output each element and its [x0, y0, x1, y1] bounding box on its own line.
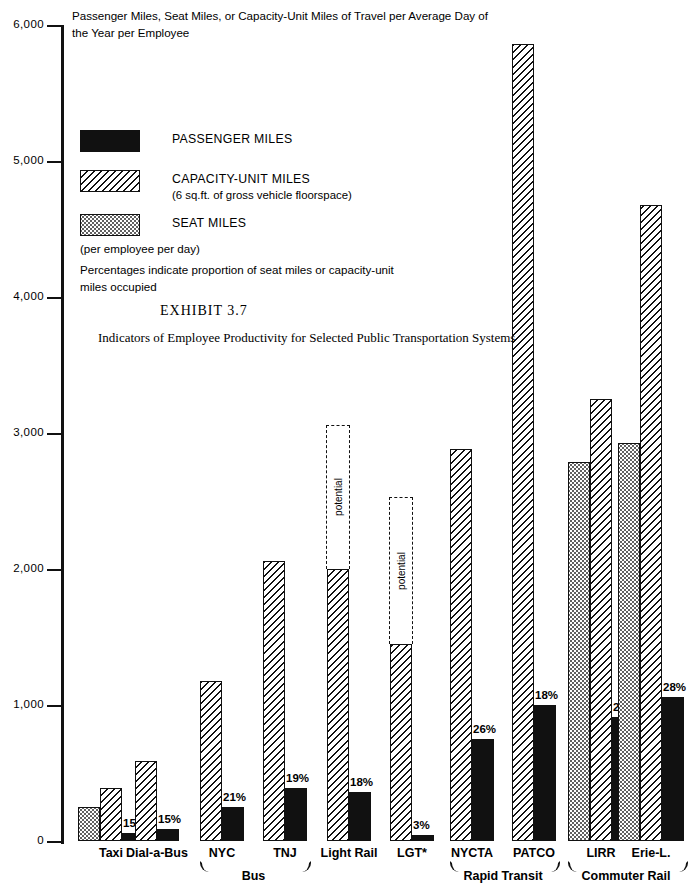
- legend-note-percentages: Percentages indicate proportion of seat …: [80, 262, 410, 296]
- exhibit-subtitle: Indicators of Employee Productivity for …: [98, 328, 515, 348]
- chart-legend: PASSENGER MILESCAPACITY-UNIT MILES(6 sq.…: [80, 130, 440, 254]
- percent-label-eriel: 28%: [663, 681, 686, 693]
- bar-seat-taxi: [78, 807, 100, 841]
- group-label-bus: Bus: [242, 869, 266, 883]
- category-label-lirr: LIRR: [586, 846, 615, 860]
- y-tick-label: 5,000: [0, 154, 44, 166]
- exhibit-number: EXHIBIT 3.7: [160, 303, 248, 319]
- y-tick-mark: [47, 705, 62, 707]
- bar-capacity-lightrail: [327, 569, 349, 841]
- category-label-lgt: LGT*: [397, 846, 427, 860]
- legend-label-capacity: CAPACITY-UNIT MILES(6 sq.ft. of gross ve…: [172, 171, 352, 203]
- percent-label-nycta: 26%: [473, 723, 496, 735]
- bar-capacity-tnj: [263, 561, 285, 841]
- bar-capacity-lirr: [590, 399, 612, 841]
- category-label-eriel: Erie-L.: [632, 846, 671, 860]
- bar-capacity-nycta: [450, 449, 472, 841]
- bar-passenger-lgt: [412, 835, 434, 841]
- category-label-dialabus: Dial-a-Bus: [126, 846, 188, 860]
- y-tick-label: 0: [0, 834, 44, 846]
- legend-label-main: PASSENGER MILES: [172, 131, 292, 148]
- category-label-patco: PATCO: [513, 846, 555, 860]
- y-tick-label: 4,000: [0, 290, 44, 302]
- bar-capacity-lgt: [390, 644, 412, 841]
- bar-passenger-nycta: [472, 739, 494, 841]
- legend-swatch-passenger: [80, 130, 140, 152]
- bar-capacity-dialabus: [135, 761, 157, 841]
- bar-capacity-taxi: [100, 788, 122, 841]
- bar-passenger-dialabus: [157, 829, 179, 841]
- bar-capacity-eriel: [640, 205, 662, 841]
- bar-passenger-eriel: [662, 697, 684, 841]
- y-tick-mark: [47, 433, 62, 435]
- y-tick-label: 3,000: [0, 426, 44, 438]
- y-tick-mark: [47, 161, 62, 163]
- bar-passenger-nyc: [222, 807, 244, 841]
- percent-label-dialabus: 15%: [158, 813, 181, 825]
- potential-label: potential: [395, 550, 408, 592]
- chart-header-note: Passenger Miles, Seat Miles, or Capacity…: [72, 8, 502, 42]
- category-label-taxi: Taxi: [99, 846, 123, 860]
- legend-item-passenger: PASSENGER MILES: [80, 130, 440, 170]
- bar-passenger-tnj: [285, 788, 307, 841]
- bar-capacity-patco: [512, 44, 534, 841]
- legend-label-seat: SEAT MILES: [172, 215, 246, 232]
- y-tick-label: 6,000: [0, 18, 44, 30]
- bar-seat-lirr: [568, 462, 590, 841]
- legend-note-per-employee: (per employee per day): [80, 242, 200, 255]
- group-label-rapidtransit: Rapid Transit: [463, 869, 542, 883]
- percent-label-tnj: 19%: [286, 772, 309, 784]
- bar-potential-lgt: potential: [389, 497, 413, 644]
- legend-label-main: CAPACITY-UNIT MILES: [172, 171, 352, 188]
- category-label-nycta: NYCTA: [451, 846, 493, 860]
- y-tick-mark: [47, 841, 62, 843]
- y-tick-mark: [47, 297, 62, 299]
- percent-label-nyc: 21%: [223, 791, 246, 803]
- category-label-lightrail: Light Rail: [321, 846, 378, 860]
- category-label-nyc: NYC: [209, 846, 235, 860]
- percent-label-patco: 18%: [535, 689, 558, 701]
- percent-label-lightrail: 18%: [350, 776, 373, 788]
- bar-capacity-nyc: [200, 681, 222, 841]
- y-tick-label: 2,000: [0, 562, 44, 574]
- y-tick-mark: [47, 25, 62, 27]
- y-tick-mark: [47, 569, 62, 571]
- potential-label: potential: [332, 477, 345, 519]
- bar-potential-lightrail: potential: [326, 425, 350, 569]
- category-label-tnj: TNJ: [273, 846, 297, 860]
- bar-seat-eriel: [618, 443, 640, 841]
- legend-item-capacity: CAPACITY-UNIT MILES(6 sq.ft. of gross ve…: [80, 170, 440, 214]
- legend-label-passenger: PASSENGER MILES: [172, 131, 292, 148]
- legend-label-sub: (6 sq.ft. of gross vehicle floorspace): [172, 188, 352, 203]
- legend-label-main: SEAT MILES: [172, 215, 246, 232]
- legend-swatch-capacity: [80, 170, 140, 192]
- bar-passenger-patco: [534, 705, 556, 841]
- percent-label-lgt: 3%: [413, 819, 430, 831]
- group-label-commuterrail: Commuter Rail: [582, 869, 671, 883]
- y-tick-label: 1,000: [0, 698, 44, 710]
- bar-passenger-lightrail: [349, 792, 371, 841]
- legend-swatch-seat: [80, 214, 140, 236]
